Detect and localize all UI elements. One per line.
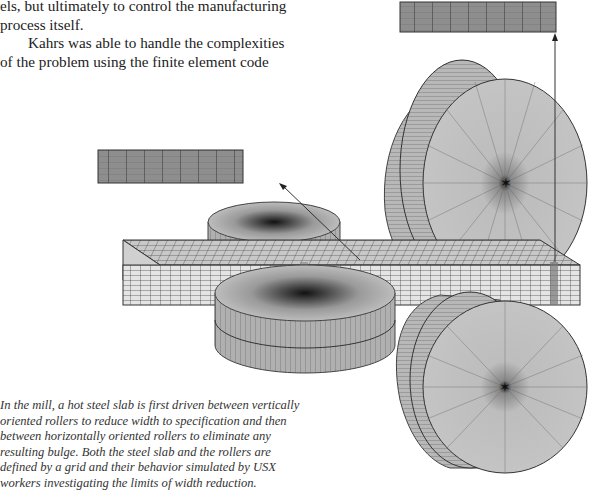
cross-section-inset-left [98,150,243,183]
vertical-roller-bottom: ✶ [396,292,587,473]
figure-caption: In the mill, a hot steel slab is first d… [0,398,300,491]
cross-section-inset-right [400,2,556,32]
hub-star-icon: ✶ [499,380,511,395]
horizontal-roller-bottom [215,265,395,373]
hub-star-icon: ✶ [500,176,512,191]
arrow-up-icon [552,33,558,41]
